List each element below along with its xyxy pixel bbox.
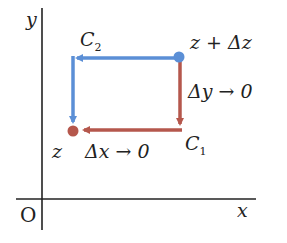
path-c1: [84, 60, 182, 130]
complex-derivative-diagram: y x O C2 C1 z + Δz z Δy → 0 Δx → 0: [0, 0, 287, 243]
start-point-label: z: [52, 142, 62, 161]
c2-label: C2: [80, 30, 102, 53]
delta-x-annotation: Δx → 0: [85, 142, 150, 161]
x-axis-label: x: [237, 201, 248, 220]
c1-label: C1: [185, 134, 207, 157]
end-point-label: z + Δz: [190, 33, 252, 52]
point-z-plus-dz: [174, 52, 185, 63]
delta-y-annotation: Δy → 0: [188, 82, 253, 101]
path-c2: [73, 56, 178, 122]
origin-label: O: [20, 205, 36, 225]
y-axis-label: y: [26, 10, 37, 29]
point-z: [68, 126, 79, 137]
